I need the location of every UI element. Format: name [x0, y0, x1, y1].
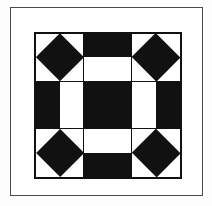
solid-square-shape — [84, 82, 131, 129]
diamond-shape — [132, 129, 180, 177]
quilt-patch-top-left — [36, 34, 84, 82]
quilt-patch-middle-right — [132, 82, 180, 130]
diamond-shape — [36, 129, 84, 177]
quilt-patch-middle-left — [36, 82, 84, 130]
diamond-shape — [36, 34, 83, 81]
half-rectangle-shape — [84, 153, 131, 177]
figure-frame — [10, 7, 203, 196]
page-root — [0, 0, 212, 206]
quilt-patch-center — [84, 82, 132, 130]
half-rectangle-shape — [84, 34, 131, 57]
quilt-block-diagram — [34, 32, 182, 179]
diamond-shape — [132, 34, 180, 81]
quilt-patch-bottom-right — [132, 129, 180, 177]
quilt-patch-bottom-center — [84, 129, 132, 177]
half-rectangle-shape — [36, 82, 60, 129]
quilt-patch-top-center — [84, 34, 132, 82]
half-rectangle-shape — [156, 82, 180, 129]
quilt-patch-top-right — [132, 34, 180, 82]
quilt-patch-bottom-left — [36, 129, 84, 177]
